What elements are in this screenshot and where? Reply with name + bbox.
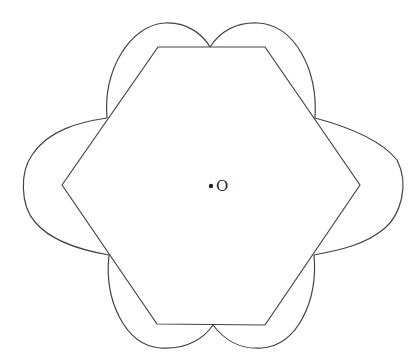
lobe-top-right [210, 23, 315, 118]
lobe-top-left [107, 23, 210, 118]
center-label: O [216, 177, 228, 195]
lobe-bottom-left [108, 255, 213, 348]
hexagon-lobes-diagram: O [0, 0, 418, 364]
lobe-bottom-right [213, 255, 315, 348]
center-point [209, 184, 213, 188]
